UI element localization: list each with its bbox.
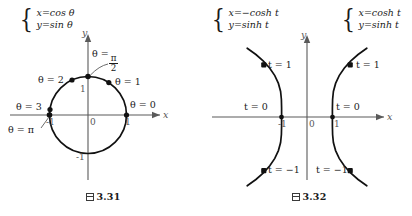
tick-label-y-1: 1	[80, 84, 86, 94]
x-axis-label: x	[387, 111, 392, 122]
tick-label-x-neg1: -1	[46, 117, 55, 127]
label-left-t-0: t = 0	[244, 101, 268, 112]
point-theta-2	[69, 77, 74, 82]
figure-3-31: { x=cos θ y=sin θ x y 0 1 -1 1 -1 θ = 0 …	[0, 0, 206, 216]
label-left-t-minus-1: t = −1	[268, 164, 300, 175]
label-right-t-minus-1: t = −1	[316, 164, 348, 175]
label-theta-half-pi-lhs: θ =	[92, 48, 109, 59]
tick-label-x-1: 1	[125, 117, 131, 127]
x-axis	[10, 112, 160, 118]
point-theta-3	[47, 107, 52, 112]
fraction-pi-over-2: π2	[109, 54, 118, 75]
label-right-t-1: t = 1	[356, 59, 380, 70]
tick-label-x-1: 1	[334, 119, 340, 129]
figure-caption-3-32: 3.32	[206, 191, 412, 202]
label-theta-pi: θ = π	[8, 124, 34, 135]
brace-glyph-right: {	[342, 9, 355, 29]
label-theta-3: θ = 3	[16, 101, 42, 112]
point-theta-half-pi	[85, 74, 91, 80]
tick-label-y-neg1: -1	[76, 152, 85, 162]
brace-glyph: {	[20, 9, 33, 29]
figure-3-32: { x=−cosh t y=sinh t { x=cosh t y=sinh t…	[206, 0, 412, 216]
label-theta-1: θ = 1	[115, 76, 141, 87]
point-left-t-minus-1	[261, 168, 266, 173]
equation-block-left-branch: { x=−cosh t y=sinh t	[210, 8, 279, 30]
figure-caption-number: 3.32	[303, 191, 327, 202]
equation-left-line-x: x=−cosh t	[229, 8, 279, 18]
y-axis-label: y	[82, 27, 87, 38]
x-axis-label: x	[163, 109, 168, 120]
hyperbola-plot	[206, 0, 412, 216]
label-theta-2: θ = 2	[38, 74, 64, 85]
equation-right-line-y: y=sinh t	[359, 20, 401, 30]
x-axis	[212, 114, 384, 120]
equation-block-circle: { x=cos θ y=sin θ	[18, 8, 75, 30]
y-axis	[85, 34, 91, 180]
point-left-t-1	[261, 62, 266, 67]
label-left-t-1: t = 1	[268, 59, 292, 70]
equation-line-x: x=cos θ	[37, 8, 75, 18]
label-theta-0: θ = 0	[130, 99, 156, 110]
label-theta-half-pi: θ =π2	[92, 48, 118, 74]
figure-caption-3-31: 3.31	[0, 191, 206, 202]
zu-kanji-box-icon	[86, 193, 94, 201]
y-axis	[304, 35, 310, 180]
fraction-denominator: 2	[109, 64, 118, 74]
tick-label-x-neg1: -1	[278, 119, 287, 129]
figure-caption-number: 3.31	[97, 191, 121, 202]
label-right-t-0: t = 0	[336, 101, 360, 112]
equation-right-line-x: x=cosh t	[359, 8, 401, 18]
origin-label: 0	[90, 117, 96, 127]
y-axis-label: y	[301, 29, 306, 40]
figure-pair: { x=cos θ y=sin θ x y 0 1 -1 1 -1 θ = 0 …	[0, 0, 412, 216]
zu-kanji-box-icon	[292, 193, 300, 201]
point-right-t-minus-1	[348, 168, 353, 173]
equation-line-y: y=sin θ	[37, 20, 75, 30]
equation-block-right-branch: { x=cosh t y=sinh t	[340, 8, 401, 30]
origin-label: 0	[309, 119, 315, 129]
point-right-t-1	[348, 62, 353, 67]
brace-glyph-left: {	[212, 9, 225, 29]
point-theta-1	[106, 80, 111, 85]
equation-left-line-y: y=sinh t	[229, 20, 279, 30]
